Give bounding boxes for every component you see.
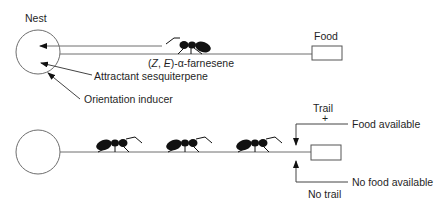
plus-label: + [322, 112, 328, 124]
no-trail-label: No trail [308, 188, 341, 200]
nest-circle-top [16, 30, 60, 74]
food-label: Food [314, 30, 338, 42]
pheromone-suffix: )-α-farnesene [171, 57, 234, 69]
food-box-bottom [311, 145, 341, 160]
food-box-top [312, 46, 342, 60]
pheromone-e: E [164, 57, 171, 69]
food-available-label: Food available [352, 118, 420, 130]
no-food-available-arrow [296, 161, 348, 182]
nest-circle-bottom [16, 130, 60, 174]
attractant-label: Attractant sesquiterpene [94, 70, 208, 82]
ant-icon-1 [95, 137, 142, 152]
food-available-arrow [296, 124, 348, 145]
nest-label: Nest [25, 12, 47, 24]
diagram-canvas [0, 0, 446, 205]
no-food-available-label: No food available [352, 176, 433, 188]
pheromone-label: (Z, E)-α-farnesene [148, 57, 234, 69]
ant-icon-3 [235, 137, 282, 152]
orientation-label: Orientation inducer [84, 93, 173, 105]
ant-icon-2 [165, 137, 212, 152]
orientation-arrow [48, 73, 80, 99]
ant-icon-returning [166, 38, 212, 54]
